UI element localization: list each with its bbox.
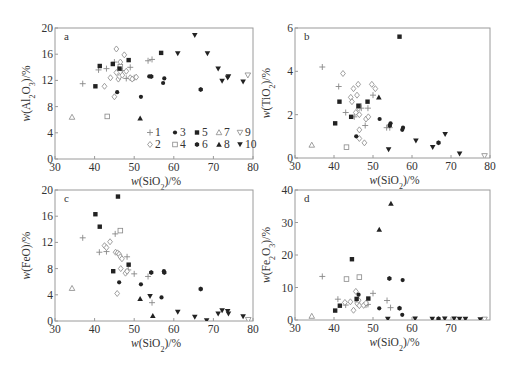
data-point [98,64,102,68]
data-point [112,94,117,100]
y-tick-label: 0 [287,152,293,164]
x-tick-label: 70 [445,160,457,172]
data-point [131,271,137,277]
data-point [192,315,198,320]
data-point [344,277,349,282]
series-6 [149,74,203,92]
data-point [357,127,362,133]
series-5 [333,34,402,125]
data-point [150,313,156,318]
y-tick-label: 16 [42,210,54,222]
data-point [162,76,166,80]
y-tick-label: 0 [47,315,53,327]
y-tick-label: 4 [287,65,293,77]
x-tick-label: 50 [128,161,140,173]
data-point [219,79,225,84]
y-tick-label: 6 [287,22,293,34]
series-7 [309,142,315,147]
data-point [451,317,457,322]
data-point [463,317,469,322]
data-point [226,312,232,317]
series-5 [93,194,131,273]
data-points [309,34,487,158]
data-point [199,286,203,291]
series-9 [245,317,251,322]
data-point [124,254,130,260]
data-point [341,71,346,77]
data-point [126,262,130,266]
data-point [442,132,448,137]
legend-symbol-icon [195,130,199,134]
data-point [111,62,115,66]
x-tick-label: 50 [367,322,379,334]
data-point [103,66,109,72]
data-point [366,296,370,300]
data-point [126,58,130,62]
series-2 [102,239,129,297]
y-axis-label: w(FeO)/% [20,231,33,279]
data-points [309,201,487,322]
data-point [69,285,75,290]
data-point [93,212,97,216]
data-point [309,142,315,147]
data-point [137,296,143,301]
data-point [370,92,376,98]
data-point [430,145,436,150]
panel-b: 3040506070800246bw(SiO2)/%w(TiO2)/% [260,22,496,191]
legend-label: 3 [180,126,186,138]
plot-frame [55,190,253,321]
data-point [319,64,325,70]
series-10 [175,33,246,85]
data-point [139,95,143,99]
data-point [365,105,371,111]
data-point [145,58,151,64]
plot-frame [295,190,490,320]
data-point [344,145,349,150]
x-tick-label: 60 [168,161,180,173]
data-point [118,266,123,272]
x-tick-label: 40 [328,160,340,172]
plot-frame [295,28,490,158]
x-tick-label: 60 [168,323,180,335]
data-point [149,270,153,275]
data-point [401,126,405,130]
data-point [436,140,440,145]
data-point [96,249,102,255]
legend-item-5: 5 [195,126,208,138]
series-3 [354,117,405,139]
legend-item-10: 10 [237,138,257,150]
data-point [457,151,463,156]
x-tick-label: 80 [247,323,259,335]
data-point [102,83,107,89]
data-point [199,87,203,92]
data-point [335,296,341,302]
legend-symbol-icon [195,142,199,147]
data-point [350,257,354,261]
data-point [356,81,361,87]
y-tick-label: 30 [282,217,294,229]
y-tick-label: 20 [42,184,54,196]
data-point [111,269,115,273]
data-point [457,317,463,322]
x-axis-label: w(SiO2)/% [131,175,181,192]
x-tick-label: 70 [445,322,457,334]
data-point [139,282,143,286]
panel-a: 304050607080048121620aw(SiO2)/%w(Al2O3)/… [20,22,259,192]
data-point [240,314,246,319]
data-points [69,194,251,323]
figure-container: 304050607080048121620aw(SiO2)/%w(Al2O3)/… [0,0,520,370]
series-9 [245,73,251,78]
data-point [118,228,123,233]
legend-item-6: 6 [195,138,208,150]
data-point [388,201,394,206]
legend-label: 6 [202,138,208,150]
legend-item-3: 3 [173,126,186,138]
data-point [175,310,181,315]
data-point [413,138,419,143]
legend-label: 9 [245,126,251,138]
data-point [373,86,378,92]
y-axis-label: w(Fe2O3)/% [260,227,277,283]
data-point [412,317,418,322]
scatter-figure: 304050607080048121620aw(SiO2)/%w(Al2O3)/… [0,0,520,370]
legend-label: 4 [180,138,186,150]
